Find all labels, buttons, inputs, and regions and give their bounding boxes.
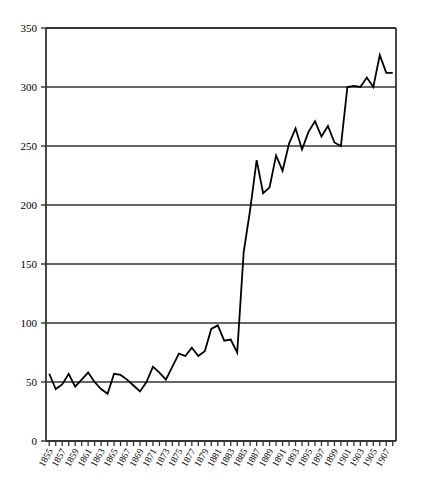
y-tick-label-50: 50 xyxy=(26,376,38,388)
x-axis-tick-labels: 1855185718591861186318651867186918711873… xyxy=(37,447,392,469)
y-tick-label-350: 350 xyxy=(21,22,38,34)
y-tick-label-150: 150 xyxy=(21,258,38,270)
y-tick-label-100: 100 xyxy=(21,317,38,329)
y-tick-label-200: 200 xyxy=(21,199,38,211)
x-tick-label-1907: 1907 xyxy=(374,447,392,469)
series-line-value xyxy=(49,55,393,394)
y-axis-tick-labels: 050100150200250300350 xyxy=(21,22,38,447)
chart-container: 050100150200250300350 185518571859186118… xyxy=(0,0,424,491)
data-series-line xyxy=(49,55,393,394)
y-tick-label-250: 250 xyxy=(21,140,38,152)
gridlines xyxy=(46,28,396,382)
line-chart: 050100150200250300350 185518571859186118… xyxy=(0,0,424,491)
y-tick-label-0: 0 xyxy=(32,435,38,447)
y-tick-label-300: 300 xyxy=(21,81,38,93)
plot-frame xyxy=(46,28,396,441)
